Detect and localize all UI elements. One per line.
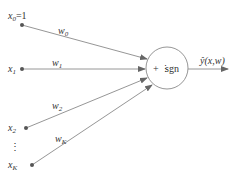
edge-w2 xyxy=(26,78,147,128)
input-node-x2 xyxy=(24,126,28,130)
input-node-x0 xyxy=(20,23,24,27)
node-sgn: sgn xyxy=(165,63,179,74)
label-x0: x0=1 xyxy=(7,10,27,23)
label-wK: wK xyxy=(55,133,67,146)
node-plus: + xyxy=(153,63,159,74)
label-w1: w1 xyxy=(52,57,62,70)
edge-w0 xyxy=(22,25,147,59)
label-x1: x1 xyxy=(7,63,16,76)
label-w2: w2 xyxy=(52,100,63,113)
output-label: ŷ(x,w) xyxy=(199,55,225,67)
label-x2: x2 xyxy=(7,122,16,135)
label-xK: xK xyxy=(7,159,17,172)
input-node-x1 xyxy=(20,67,24,71)
ellipsis: ⋮ xyxy=(10,141,20,152)
input-node-xK xyxy=(30,163,34,167)
edge-wK xyxy=(32,85,152,165)
perceptron-diagram: + ⋮ sgn x0=1 x1 x2 ⋮ xK w0 w1 w2 wK ŷ(x,… xyxy=(0,0,235,177)
